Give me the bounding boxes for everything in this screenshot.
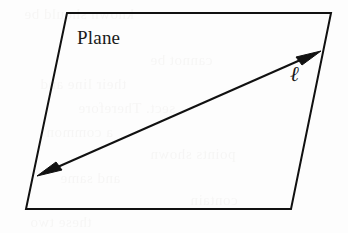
line-ell-shaft (44, 54, 314, 173)
arrowhead-left (37, 162, 62, 176)
arrowhead-right (296, 51, 321, 65)
line-ell-label: ℓ (290, 63, 299, 85)
plane-label: Plane (77, 27, 120, 48)
geometry-figure: known should be cannot be their line and… (0, 0, 348, 233)
plane-parallelogram (26, 13, 331, 209)
diagram-canvas (0, 0, 348, 233)
